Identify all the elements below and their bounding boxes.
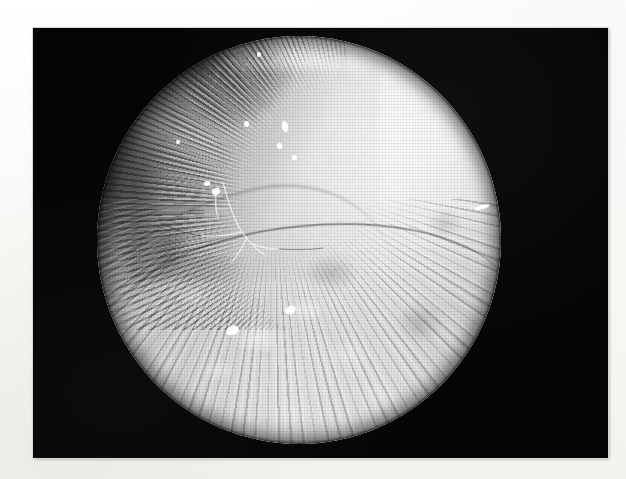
endoscope-field-of-view [97,36,501,444]
figure-caption: (a) [36,464,596,477]
highlight-7 [257,52,261,57]
highlight-5 [204,181,210,186]
highlight-1 [244,121,249,127]
highlight-3 [277,143,282,149]
document-page: (a) [0,0,626,479]
highlight-4 [292,155,297,160]
photographic-plate [33,28,608,458]
highlight-9 [176,140,180,144]
